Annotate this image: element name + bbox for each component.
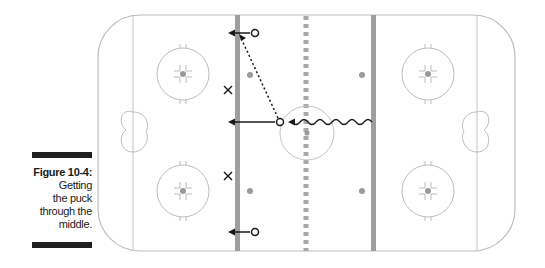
- faceoff-dot: [425, 188, 431, 194]
- offense-player-icon: [252, 229, 259, 236]
- offense-player-icon: [277, 119, 284, 126]
- neutral-zone-dot: [359, 72, 365, 78]
- faceoff-dot: [180, 71, 186, 77]
- center-faceoff-dot: [305, 131, 310, 136]
- neutral-zone-dot: [247, 188, 253, 194]
- right-blue-line: [371, 15, 376, 251]
- faceoff-dot: [180, 188, 186, 194]
- neutral-zone-dot: [359, 188, 365, 194]
- hockey-rink-diagram: [0, 0, 545, 268]
- faceoff-dot: [425, 71, 431, 77]
- left-blue-line: [235, 15, 240, 251]
- offense-player-icon: [252, 30, 259, 37]
- neutral-zone-dot: [247, 72, 253, 78]
